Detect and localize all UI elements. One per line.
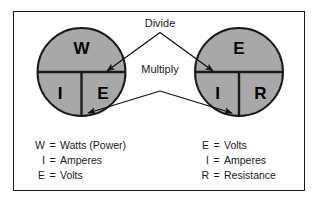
legend-item: I = Amperes [32,153,126,167]
legend-equals: = [209,138,224,152]
legend-symbol: W [32,138,45,152]
ohms-law-wheel: E I R [195,28,283,116]
legend-item: I = Amperes [196,153,276,167]
legend-equals: = [45,138,60,152]
ohms-law-wheel-top-letter: E [233,39,244,58]
power-wheel-top-letter: W [73,39,90,58]
power-wheel: W I E [38,28,126,116]
legend-item: E = Volts [196,138,276,152]
legend-equals: = [209,153,224,167]
legend-symbol: I [32,153,45,167]
legend-equals: = [209,168,224,182]
legend-equals: = [45,168,60,182]
legend-equals: = [45,153,60,167]
divide-label: Divide [145,17,176,29]
ohms-law-wheel-figure: W I E E I R Divide Multiply [0,0,319,203]
legend-item: W = Watts (Power) [32,138,126,152]
legend-symbol: E [196,138,209,152]
legend-item: E = Volts [32,168,126,182]
ohms-law-wheel-bottom-left-letter: I [215,84,220,103]
legend-definition: Volts [224,138,247,152]
ohms-law-legend: E = Volts I = Amperes R = Resistance [196,138,276,182]
legend-definition: Resistance [224,168,276,182]
legend-symbol: E [32,168,45,182]
legend-item: R = Resistance [196,168,276,182]
power-legend: W = Watts (Power) I = Amperes E = Volts [32,138,126,182]
legend-symbol: R [196,168,209,182]
legend-symbol: I [196,153,209,167]
operation-labels: Divide Multiply [127,16,193,77]
legend-definition: Amperes [60,153,102,167]
legend-definition: Amperes [224,153,266,167]
legend-definition: Watts (Power) [60,138,126,152]
legend-definition: Volts [60,168,83,182]
ohms-law-wheel-bottom-right-letter: R [254,84,266,103]
multiply-label: Multiply [141,63,179,75]
power-wheel-bottom-right-letter: E [97,84,108,103]
power-wheel-bottom-left-letter: I [58,84,63,103]
